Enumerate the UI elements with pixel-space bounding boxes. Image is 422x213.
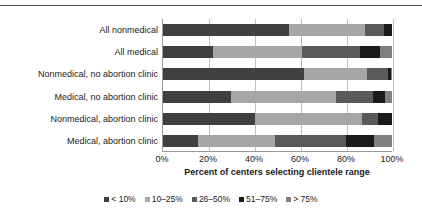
x-tick-label: 40% [245,154,263,165]
bar-segment [373,91,385,103]
bar-segment [163,68,304,80]
plot-area [162,19,392,152]
y-axis-label: All medical [0,47,158,57]
bar-segment [346,135,374,147]
bar-segment [302,46,360,58]
bar-segment [275,135,346,147]
bar-segment [380,46,392,58]
bar-segment [163,135,198,147]
bar-segment [378,113,392,125]
bar-segment [391,68,392,80]
legend-label: < 10% [111,194,135,204]
bar-segment [367,68,388,80]
bar-segment [255,113,363,125]
bar-segment [213,46,303,58]
bar-segment [289,24,366,36]
bar-segment [304,68,367,80]
legend-swatch-icon [286,197,291,202]
bar-row [163,113,392,125]
bar-segment [163,113,255,125]
legend-entry[interactable]: 51–75% [239,194,277,204]
x-tick-label: 80% [337,154,355,165]
legend-label: 10–25% [152,194,183,204]
x-tick-label: 60% [291,154,309,165]
x-axis-title: Percent of centers selecting clientele r… [162,167,392,177]
bar-row [163,135,392,147]
legend-entry[interactable]: < 10% [104,194,135,204]
y-axis-label: Medical, no abortion clinic [0,92,158,102]
bar-segment [163,91,231,103]
legend-entry[interactable]: 10–25% [145,194,183,204]
bar-segment [374,135,392,147]
bar-segment [163,24,289,36]
y-axis-label: Nonmedical, no abortion clinic [0,69,158,79]
bar-row [163,24,392,36]
bar-segment [362,113,378,125]
bar-segment [360,46,380,58]
chart-legend: < 10%10–25%26–50%51–75%> 75% [0,194,422,204]
legend-entry[interactable]: > 75% [286,194,317,204]
bar-segment [365,24,384,36]
y-axis-category-labels: All nonmedicalAll medicalNonmedical, no … [0,19,158,152]
y-axis-label: All nonmedical [0,25,158,35]
legend-swatch-icon [145,197,150,202]
gridline-100% [393,19,394,151]
x-axis-tick-labels: 0%20%40%60%80%100% [162,154,392,166]
legend-swatch-icon [239,197,244,202]
x-tick-label: 20% [199,154,217,165]
bar-segment [384,24,392,36]
bar-segment [385,91,392,103]
bar-row [163,46,392,58]
legend-swatch-icon [192,197,197,202]
legend-label: 26–50% [199,194,230,204]
bar-row [163,68,392,80]
bar-segment [336,91,373,103]
y-axis-label: Nonmedical, abortion clinic [0,114,158,124]
x-tick-label: 0% [155,154,168,165]
stacked-bar-chart: All nonmedicalAll medicalNonmedical, no … [0,6,422,213]
legend-swatch-icon [104,197,109,202]
bar-segment [163,46,213,58]
bar-segment [198,135,276,147]
legend-label: > 75% [293,194,317,204]
bar-segment [231,91,337,103]
bar-row [163,91,392,103]
y-axis-label: Medical, abortion clinic [0,136,158,146]
x-tick-label: 100% [380,154,403,165]
legend-label: 51–75% [246,194,277,204]
bar-series-container [163,19,392,151]
legend-entry[interactable]: 26–50% [192,194,230,204]
